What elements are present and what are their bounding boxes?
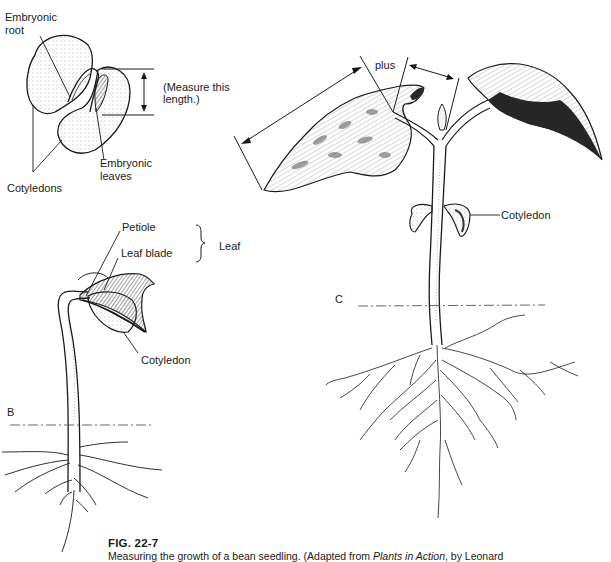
label-embryonic-leaves-line2: leaves <box>100 170 132 182</box>
figure-number: FIG. 22-7 <box>108 537 158 549</box>
label-petiole: Petiole <box>122 221 156 233</box>
label-embryonic-leaves-line1: Embryonic <box>100 157 152 169</box>
figure-caption: Measuring the growth of a bean seedling.… <box>108 550 503 562</box>
label-embryonic-root-line2: root <box>5 24 24 36</box>
panel-letter-c: C <box>335 293 343 305</box>
label-cotyledon-c: Cotyledon <box>501 209 551 221</box>
label-leaf-blade: Leaf blade <box>121 247 172 259</box>
label-measure-this-line1: (Measure this <box>163 81 230 93</box>
caption-prefix: Measuring the growth of a bean seedling.… <box>108 550 373 562</box>
label-measure-this-line2: length.) <box>163 93 200 105</box>
label-cotyledon-b: Cotyledon <box>141 354 191 366</box>
label-cotyledons: Cotyledons <box>7 182 62 194</box>
caption-suffix: , by Leonard <box>445 550 503 562</box>
panel-letter-b: B <box>7 406 14 418</box>
label-leaf: Leaf <box>219 240 240 252</box>
label-plus: plus <box>375 59 395 71</box>
label-embryonic-root-line1: Embryonic <box>5 11 57 23</box>
caption-book-title: Plants in Action <box>373 550 445 562</box>
